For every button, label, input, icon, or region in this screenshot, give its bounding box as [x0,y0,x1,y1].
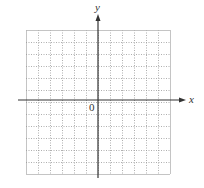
x-axis-arrow-icon [179,98,186,103]
x-axis-label: x [189,94,194,105]
origin-label: 0 [89,102,95,113]
y-axis-label: y [95,2,100,13]
y-axis-arrow-icon [96,14,101,21]
axes [18,14,186,178]
coordinate-plane [0,0,204,188]
